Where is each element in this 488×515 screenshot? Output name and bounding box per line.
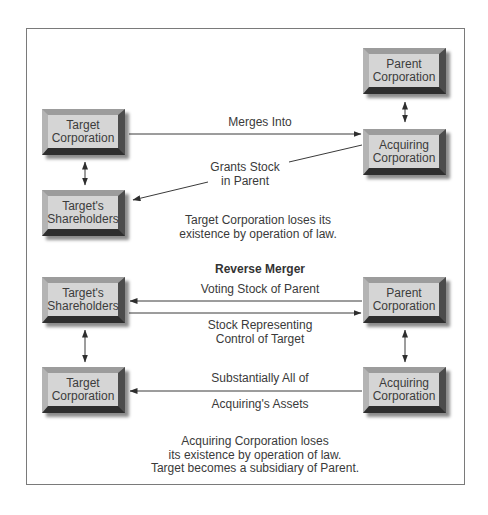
box-acquiring-corporation-top: Acquiring Corporation bbox=[363, 129, 446, 175]
note-acquiring-loses-existence: Acquiring Corporation loses its existenc… bbox=[140, 435, 370, 476]
box-label: Target's Shareholders bbox=[48, 196, 118, 229]
box-label: Parent Corporation bbox=[369, 283, 439, 316]
grants-stock-line-upper bbox=[289, 145, 362, 162]
box-label: Acquiring Corporation bbox=[369, 135, 439, 168]
box-target-corporation-bottom: Target Corporation bbox=[42, 367, 125, 413]
box-parent-corporation-bottom: Parent Corporation bbox=[363, 277, 446, 323]
note-target-loses-existence: Target Corporation loses its existence b… bbox=[163, 214, 353, 241]
label-acquirings-assets: Acquiring's Assets bbox=[175, 398, 345, 412]
label-grants-stock: Grants Stock in Parent bbox=[195, 161, 295, 188]
box-acquiring-corporation-bottom: Acquiring Corporation bbox=[363, 367, 446, 413]
section-title-reverse-merger: Reverse Merger bbox=[190, 263, 330, 277]
label-voting-stock: Voting Stock of Parent bbox=[165, 283, 355, 297]
box-target-shareholders-bottom: Target's Shareholders bbox=[42, 277, 125, 323]
label-merges-into: Merges Into bbox=[190, 116, 330, 130]
box-label: Parent Corporation bbox=[369, 54, 439, 87]
box-label: Target's Shareholders bbox=[48, 283, 118, 316]
box-label: Acquiring Corporation bbox=[369, 373, 439, 406]
box-target-corporation-top: Target Corporation bbox=[42, 109, 125, 155]
box-parent-corporation-top: Parent Corporation bbox=[363, 48, 446, 94]
label-substantially-all: Substantially All of bbox=[175, 372, 345, 386]
box-label: Target Corporation bbox=[48, 373, 118, 406]
box-target-shareholders-top: Target's Shareholders bbox=[42, 190, 125, 236]
box-label: Target Corporation bbox=[48, 115, 118, 148]
label-stock-representing: Stock Representing Control of Target bbox=[175, 319, 345, 346]
